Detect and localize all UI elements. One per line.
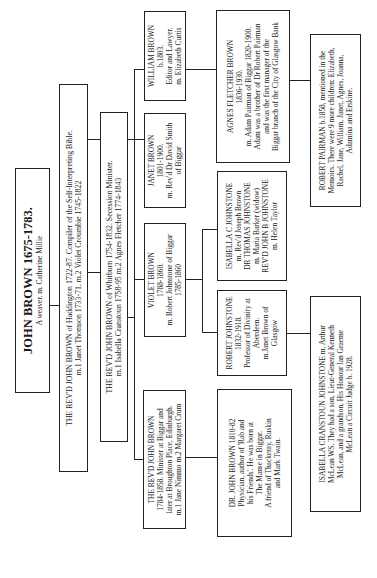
person-detail: 1784-1858. Minister at Biggar and	[156, 408, 165, 510]
connector-violet-children-bus	[202, 230, 203, 333]
person-box-john-brown-1675: JOHN BROWN 1675-1783. A weaver. m. Cathe…	[15, 168, 50, 393]
person-detail: m.1 Isabella Cranstoun 1758-95 m.2 Agnes…	[114, 178, 123, 377]
person-detail: A friend of Thackeray, Ruskin	[264, 418, 273, 507]
person-detail: Memoirs. There were 9 more children: Eli…	[327, 48, 336, 194]
person-detail: Biggar branch of the City of Glasgow Ban…	[271, 22, 280, 151]
connector-bus-violet	[134, 279, 144, 280]
person-detail: m. Rev'd Joseph Brown	[234, 191, 243, 261]
person-detail: 1836-1930.	[235, 70, 244, 104]
person-detail: Editor and Lawyer.	[165, 28, 174, 85]
person-name: DR THOMAS JOHNSTONE	[243, 182, 252, 270]
connector-janet-william-bus	[134, 70, 135, 140]
person-detail: m.Janet Brown of	[261, 307, 270, 360]
person-box-revd-john-brown-1784: THE REV'D JOHN BROWN 1784-1858. Minister…	[143, 390, 186, 529]
person-detail: McLean a Circuit Judge b. 1928.	[345, 355, 354, 452]
person-detail: A weaver. m. Catherine Millie	[35, 236, 44, 325]
connector-gen2-gen3	[88, 272, 100, 273]
person-box-revd-john-brown-haddington: THE REV'D JOHN BROWN of Haddington 1722-…	[59, 84, 88, 472]
connector-revd-john-dr-john	[186, 457, 217, 458]
person-detail: m.1 Janet Thomson 1733-71. m.2 Violet Cr…	[74, 181, 83, 376]
person-name: JANET BROWN	[147, 135, 156, 187]
person-detail: Aberdeen.	[252, 318, 261, 349]
connector-agnes-robert-pairman	[290, 80, 310, 81]
person-box-janet-brown: JANET BROWN 1801-1900. m. Rev'd Dr David…	[144, 113, 186, 208]
person-detail: of Biggar	[174, 146, 183, 174]
person-name: ISABELLA C JOHNSTONE	[225, 183, 234, 270]
connector-bus-revd-john	[134, 459, 143, 460]
connector-bus-robert-j	[202, 332, 217, 333]
connector-william-agnes	[186, 69, 216, 70]
person-box-robert-pairman: ROBERT PAIRMAN b.1858, mentioned in the …	[310, 34, 361, 207]
person-box-violet-brown: VIOLET BROWN 1788-1860. m. Robert Johnst…	[144, 223, 186, 337]
person-name: WILLIAM BROWN	[147, 25, 156, 87]
person-detail: 1788-1860.	[156, 263, 165, 297]
connector-robert-isabella-cranstoun	[287, 333, 310, 334]
person-box-dr-john-brown-1810: DR. JOHN BROWN 1810-82 Physician, author…	[217, 389, 292, 537]
person-detail: McLean WS. They had a son, Lieut-General…	[327, 325, 336, 483]
person-detail: Rachel, Jane, William, Janet, Agnes, Joa…	[336, 55, 345, 187]
connector-violet-bus	[186, 279, 202, 280]
person-detail: m.1 Jane Nimmo m.2 Margaret Crum	[174, 404, 183, 515]
person-detail: later at Broughton Place, Edinburgh.	[165, 405, 174, 513]
person-name: THE REV'D JOHN BROWN of Haddington 1722-…	[65, 130, 74, 426]
person-detail: his Friends'. He was born at	[246, 422, 255, 504]
person-box-agnes-fletcher-brown: AGNES FLETCHER BROWN 1836-1930. m. Adam …	[216, 10, 290, 163]
person-detail: Adamina and Erskine.	[345, 88, 354, 154]
person-detail: m. Maria Barker (widow)	[252, 188, 261, 264]
person-name: THE REV'D JOHN BROWN of Whitburn 1754-18…	[105, 161, 114, 394]
person-box-isabella-cranstoun-johnstone: ISABELLA CRANSTOUN JOHNSTONE m. Arthur M…	[310, 296, 361, 512]
person-name: JOHN BROWN 1675-1783.	[21, 207, 35, 354]
person-name: ROBERT JOHNSTONE	[225, 297, 234, 370]
connector-bus-isabella-c	[202, 229, 217, 230]
family-tree-page: JOHN BROWN 1675-1783. A weaver. m. Cathe…	[0, 0, 377, 578]
person-detail: and was the first manager of the	[262, 39, 271, 134]
person-box-robert-johnstone: ROBERT JOHNSTONE 1832-1918. Professor of…	[217, 290, 287, 376]
person-name: ISABELLA CRANSTOUN JOHNSTONE m. Arthur	[318, 325, 327, 482]
connector-gen4-bus	[134, 140, 135, 460]
person-box-revd-john-brown-whitburn: THE REV'D JOHN BROWN of Whitburn 1754-18…	[100, 112, 128, 442]
connector-root-gen2	[50, 305, 59, 306]
person-detail: m. Adam Pairman of Biggar 1820-1900.	[244, 27, 253, 146]
person-detail: 1801-1900.	[156, 144, 165, 178]
connector-bus-william-stub	[134, 69, 144, 70]
person-detail: m. Helen Taylor	[270, 202, 279, 250]
person-name: REV'D JOHN B JOHNSTONE	[261, 179, 270, 272]
person-detail: Glasgow	[270, 320, 279, 346]
person-detail: 1785-1860	[174, 264, 183, 296]
person-name: DR. JOHN BROWN 1810-82	[228, 419, 237, 508]
person-name: THE REV'D JOHN BROWN	[147, 416, 156, 504]
person-detail: 1832-1918.	[234, 316, 243, 350]
person-detail: and Mark Twain.	[273, 438, 282, 488]
person-box-william-brown: WILLIAM BROWN b.1803. Editor and Lawyer.…	[144, 11, 186, 101]
person-detail: m. Elizabeth Curtis	[174, 27, 183, 84]
person-detail: Adam was a brother of Dr Robert Pairman	[253, 24, 262, 150]
person-box-isabella-c-johnstone: ISABELLA C JOHNSTONE m. Rev'd Joseph Bro…	[217, 171, 287, 281]
person-detail: Professor of Divinity at	[243, 298, 252, 368]
person-detail: Physician, author of 'Rab and	[237, 420, 246, 507]
person-detail: m. Robert Johnstone of Biggar	[165, 235, 174, 326]
person-name: VIOLET BROWN	[147, 252, 156, 308]
person-detail: The Manse in Biggar.	[255, 431, 264, 495]
person-detail: McLean, and a grandson, His Honour Ian G…	[336, 330, 345, 478]
person-name: AGNES FLETCHER BROWN	[226, 40, 235, 133]
person-detail: m. Rev'd Dr David Smith	[165, 123, 174, 198]
person-detail: b.1803.	[156, 45, 165, 67]
person-name: ROBERT PAIRMAN b.1858, mentioned in the	[318, 51, 327, 190]
